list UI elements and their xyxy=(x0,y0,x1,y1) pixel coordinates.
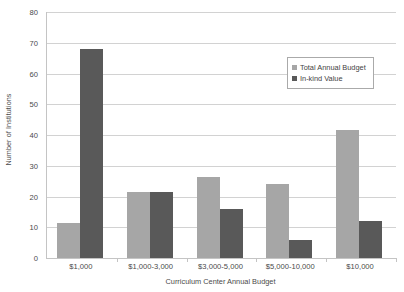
bar xyxy=(150,192,173,258)
bar-chart: Number of Institutions 01020304050607080… xyxy=(0,0,404,292)
y-axis-title-label: Number of Institutions xyxy=(4,93,13,165)
x-axis-tick-labels: $1,000$1,000-3,000$3,000-5,000$5,000-10,… xyxy=(46,262,395,274)
bar-group xyxy=(117,12,187,258)
x-axis-tick-label: $1,000-3,000 xyxy=(128,262,173,271)
x-axis-title: Curriculum Center Annual Budget xyxy=(46,277,395,286)
legend-entry: In-kind Value xyxy=(292,73,366,84)
y-axis-tick-label: 60 xyxy=(30,69,38,78)
x-axis-tick-label: $3,000-5,000 xyxy=(198,262,243,271)
y-axis-tick-label: 10 xyxy=(30,223,38,232)
bar-group xyxy=(326,12,396,258)
x-axis-tick-label: $1,000 xyxy=(69,262,92,271)
x-axis-tick-label: $10,000 xyxy=(346,262,373,271)
y-axis-tick-label: 20 xyxy=(30,192,38,201)
y-axis-tick-label: 50 xyxy=(30,100,38,109)
bar xyxy=(266,184,289,258)
y-axis-tick-labels: 01020304050607080 xyxy=(16,0,42,258)
y-axis-tick-label: 30 xyxy=(30,161,38,170)
legend-swatch-icon xyxy=(292,76,297,81)
y-axis-tick-label: 80 xyxy=(30,8,38,17)
legend-label: In-kind Value xyxy=(300,73,343,84)
y-axis-title: Number of Institutions xyxy=(0,0,16,258)
bar-group xyxy=(256,12,326,258)
y-axis-tick-label: 0 xyxy=(34,254,38,263)
legend-swatch-icon xyxy=(292,65,297,70)
bar xyxy=(197,177,220,258)
bar xyxy=(57,223,80,258)
bar xyxy=(127,192,150,258)
legend-label: Total Annual Budget xyxy=(300,62,366,73)
legend: Total Annual BudgetIn-kind Value xyxy=(287,57,374,89)
bar xyxy=(289,240,312,258)
bar xyxy=(80,49,103,258)
bar xyxy=(359,221,382,258)
bar xyxy=(220,209,243,258)
legend-entry: Total Annual Budget xyxy=(292,62,366,73)
bar-group xyxy=(47,12,117,258)
plot-area xyxy=(46,12,396,259)
x-axis-tick-mark xyxy=(396,258,397,262)
y-axis-tick-label: 70 xyxy=(30,38,38,47)
bar xyxy=(336,130,359,258)
x-axis-tick-label: $5,000-10,000 xyxy=(266,262,315,271)
bars-layer xyxy=(47,12,396,258)
y-axis-tick-label: 40 xyxy=(30,131,38,140)
bar-group xyxy=(187,12,257,258)
